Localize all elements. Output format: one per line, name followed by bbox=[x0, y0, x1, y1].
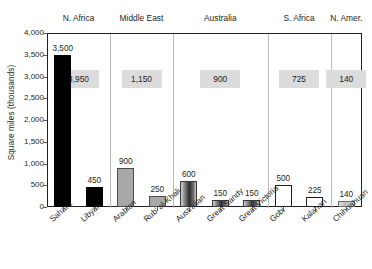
y-tick-mark bbox=[43, 55, 47, 56]
y-tick-mark bbox=[43, 207, 47, 208]
desert-area-bar-chart: Square miles (thousands) 05001,0001,5002… bbox=[0, 0, 372, 269]
bar-value-label: 500 bbox=[261, 174, 305, 183]
x-tick-mark bbox=[94, 207, 95, 211]
y-tick-mark bbox=[43, 77, 47, 78]
group-total-n-amer: 140 bbox=[326, 70, 366, 88]
y-tick-label: 2,500 bbox=[4, 94, 44, 102]
x-tick-mark bbox=[126, 207, 127, 211]
y-tick-label: 2,000 bbox=[4, 116, 44, 124]
x-tick-mark bbox=[346, 207, 347, 211]
x-tick-mark bbox=[283, 207, 284, 211]
group-total-middle-east: 1,150 bbox=[122, 70, 162, 88]
y-tick-mark bbox=[43, 185, 47, 186]
x-tick-mark bbox=[315, 207, 316, 211]
y-tick-label: 500 bbox=[4, 181, 44, 189]
x-tick-mark bbox=[252, 207, 253, 211]
y-tick-label: 3,000 bbox=[4, 73, 44, 81]
bar-value-label: 600 bbox=[167, 170, 211, 179]
y-tick-label: 0 bbox=[4, 203, 44, 211]
x-tick-mark bbox=[220, 207, 221, 211]
y-tick-mark bbox=[43, 142, 47, 143]
y-tick-mark bbox=[43, 33, 47, 34]
group-total-australia: 900 bbox=[200, 70, 240, 88]
group-header-n-amer: N. Amer. bbox=[286, 13, 372, 23]
y-tick-label: 3,500 bbox=[4, 51, 44, 59]
group-divider bbox=[173, 34, 174, 208]
group-divider bbox=[331, 34, 332, 208]
y-tick-label: 1,000 bbox=[4, 160, 44, 168]
group-total-s-africa: 725 bbox=[279, 70, 319, 88]
bar-sahara bbox=[54, 55, 71, 207]
y-tick-mark bbox=[43, 98, 47, 99]
y-tick-mark bbox=[43, 120, 47, 121]
bar-value-label: 3,500 bbox=[41, 44, 85, 53]
x-tick-mark bbox=[63, 207, 64, 211]
x-tick-mark bbox=[189, 207, 190, 211]
x-category-label: Gobi bbox=[268, 206, 287, 224]
bar-value-label: 900 bbox=[104, 157, 148, 166]
y-tick-mark bbox=[43, 164, 47, 165]
y-axis-labels: 05001,0001,5002,0002,5003,0003,5004,000 bbox=[0, 0, 44, 269]
y-tick-label: 4,000 bbox=[4, 29, 44, 37]
y-tick-label: 1,500 bbox=[4, 138, 44, 146]
bar-value-label: 450 bbox=[72, 176, 116, 185]
x-tick-mark bbox=[157, 207, 158, 211]
